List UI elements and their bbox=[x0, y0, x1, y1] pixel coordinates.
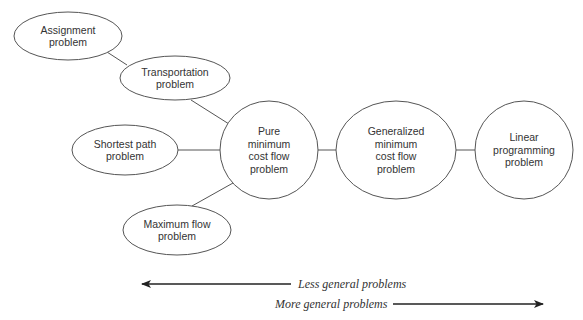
node-label-line: problem bbox=[156, 78, 194, 90]
node-label-line: cost flow bbox=[249, 150, 290, 162]
node-label-line: Transportation bbox=[141, 66, 208, 78]
less-general-label: Less general problems bbox=[297, 277, 407, 291]
node-label-line: problem bbox=[377, 163, 415, 175]
more-general-label: More general problems bbox=[274, 297, 388, 311]
node-label-line: minimum bbox=[248, 138, 291, 150]
node-label-line: programming bbox=[493, 144, 555, 156]
node-label-line: Pure bbox=[258, 125, 280, 137]
node-label-line: problem bbox=[250, 163, 288, 175]
node-label-line: problem bbox=[106, 150, 144, 162]
node-linear-programming: Linearprogrammingproblem bbox=[475, 101, 573, 199]
edge-transportation-to-pure-min-cost-flow bbox=[191, 100, 229, 124]
node-label-line: Linear bbox=[509, 131, 539, 143]
node-pure-min-cost-flow: Pureminimumcost flowproblem bbox=[220, 101, 318, 199]
edge-maximum-flow-to-pure-min-cost-flow bbox=[192, 183, 233, 206]
edge-assignment-to-transportation bbox=[107, 52, 127, 65]
nodes-layer: AssignmentproblemTransportationproblemSh… bbox=[14, 12, 573, 255]
node-label-line: problem bbox=[505, 156, 543, 168]
node-label-line: Shortest path bbox=[94, 138, 157, 150]
node-assignment: Assignmentproblem bbox=[14, 12, 122, 60]
node-label-line: Assignment bbox=[41, 24, 96, 36]
node-label-line: cost flow bbox=[376, 150, 417, 162]
node-label-line: minimum bbox=[375, 138, 418, 150]
generality-scale: Less general problemsMore general proble… bbox=[142, 277, 543, 311]
node-label-line: Maximum flow bbox=[143, 218, 211, 230]
node-label-line: Generalized bbox=[368, 125, 425, 137]
problem-hierarchy-diagram: AssignmentproblemTransportationproblemSh… bbox=[0, 0, 583, 320]
node-generalized-min-cost-flow: Generalizedminimumcost flowproblem bbox=[336, 101, 456, 199]
node-label-line: problem bbox=[49, 36, 87, 48]
node-maximum-flow: Maximum flowproblem bbox=[123, 205, 231, 255]
node-transportation: Transportationproblem bbox=[120, 56, 230, 100]
node-shortest-path: Shortest pathproblem bbox=[72, 125, 178, 175]
node-label-line: problem bbox=[158, 230, 196, 242]
